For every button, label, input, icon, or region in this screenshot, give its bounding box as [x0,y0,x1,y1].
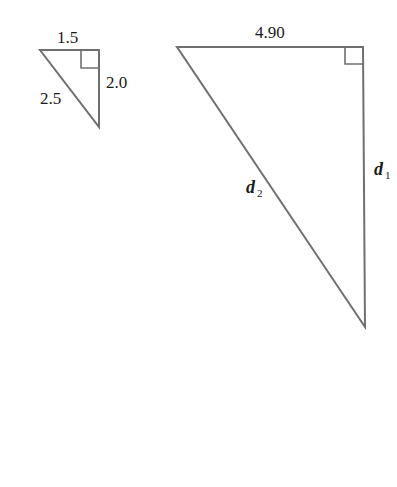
similar-triangles-diagram: 1.5 2.0 2.5 4.90 d 1 d 2 [0,0,397,487]
small-hypotenuse-label: 2.5 [40,89,61,108]
large-right-label-sub: 1 [385,169,391,181]
small-top-label: 1.5 [57,28,78,47]
large-top-label: 4.90 [255,23,285,42]
right-angle-marker-small [81,50,99,68]
small-triangle: 1.5 2.0 2.5 [40,28,127,127]
right-angle-marker-large [345,47,363,64]
small-right-label: 2.0 [106,73,127,92]
large-hypotenuse-label-var: d [246,177,256,197]
large-hypotenuse-label-sub: 2 [257,187,263,199]
large-triangle: 4.90 d 1 d 2 [177,23,391,327]
large-right-label-var: d [374,159,384,179]
